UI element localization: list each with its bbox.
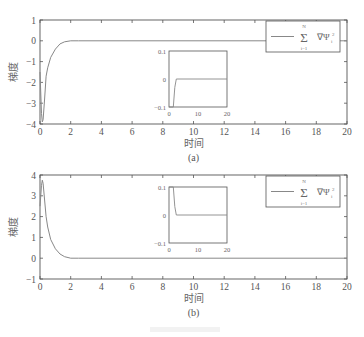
inset-y-tick-label: 0.1 <box>158 184 166 191</box>
x-tick-label: 0 <box>38 127 43 137</box>
legend-term: ∇Ψ <box>316 187 330 197</box>
y-tick-label: −4 <box>26 120 36 130</box>
y-tick-label: 3 <box>31 191 36 201</box>
inset-x-tick-label: 10 <box>195 110 202 117</box>
chart-b: 0246810121416182043210−1梯度时间(b)010200.10… <box>7 171 352 320</box>
legend-sum-symbol: Σ <box>300 185 308 200</box>
x-tick-label: 12 <box>219 127 229 137</box>
subfigure-caption: (b) <box>188 307 200 319</box>
inset-x-tick-label: 0 <box>167 246 170 253</box>
x-tick-label: 10 <box>189 127 199 137</box>
x-tick-label: 20 <box>342 282 352 292</box>
legend: NΣi=1∇Ψ2i <box>266 21 340 52</box>
inset-y-tick-label: −0.1 <box>154 240 166 247</box>
x-tick-label: 16 <box>281 127 291 137</box>
y-tick-label: 0 <box>31 254 36 264</box>
x-tick-label: 8 <box>160 282 165 292</box>
inset-y-tick-label: 0 <box>163 212 166 219</box>
x-tick-label: 10 <box>189 282 199 292</box>
x-tick-label: 18 <box>312 282 322 292</box>
subfigure-caption: (a) <box>188 152 199 164</box>
x-tick-label: 14 <box>250 282 260 292</box>
inset-x-tick-label: 20 <box>224 246 231 253</box>
x-tick-label: 0 <box>38 282 43 292</box>
x-tick-label: 4 <box>99 282 104 292</box>
y-tick-label: 2 <box>31 212 36 222</box>
inset-y-tick-label: −0.1 <box>154 104 166 111</box>
x-tick-label: 2 <box>68 127 73 137</box>
y-tick-label: −1 <box>26 275 36 285</box>
inset-x-tick-label: 10 <box>195 246 202 253</box>
y-tick-label: 4 <box>31 171 36 181</box>
inset-x-tick-label: 20 <box>224 110 231 117</box>
y-axis-label: 梯度 <box>7 217 19 237</box>
y-tick-label: −2 <box>26 78 36 88</box>
inset-y-tick-label: 0 <box>163 76 166 83</box>
x-tick-label: 14 <box>250 127 260 137</box>
figure: 0246810121416182010−1−2−3−4梯度时间(a)010200… <box>0 0 364 337</box>
inset-y-tick-label: 0.1 <box>158 48 166 55</box>
x-tick-label: 20 <box>342 127 352 137</box>
legend-sum-upper: N <box>302 24 306 29</box>
x-axis-label: 时间 <box>184 137 204 149</box>
legend-sum-lower: i=1 <box>301 46 308 51</box>
x-tick-label: 4 <box>99 127 104 137</box>
y-axis-label: 梯度 <box>7 62 19 82</box>
y-tick-label: −3 <box>26 99 36 109</box>
inset-chart: 010200.10−0.1 <box>154 184 230 254</box>
legend-sum-lower: i=1 <box>301 201 308 206</box>
y-tick-label: 1 <box>31 16 36 26</box>
x-tick-label: 6 <box>130 127 135 137</box>
chart-a: 0246810121416182010−1−2−3−4梯度时间(a)010200… <box>7 16 352 165</box>
inset-chart: 010200.10−0.1 <box>154 48 230 118</box>
legend-sum-symbol: Σ <box>300 30 308 45</box>
legend: NΣi=1∇Ψ2i <box>266 176 340 207</box>
y-tick-label: −1 <box>26 57 36 67</box>
x-tick-label: 16 <box>281 282 291 292</box>
y-tick-label: 0 <box>31 36 36 46</box>
figure-caption-faint <box>150 327 220 332</box>
legend-sum-upper: N <box>302 179 306 184</box>
x-tick-label: 8 <box>160 127 165 137</box>
x-tick-label: 12 <box>219 282 229 292</box>
inset-x-tick-label: 0 <box>167 110 170 117</box>
x-tick-label: 2 <box>68 282 73 292</box>
x-axis-label: 时间 <box>184 292 204 304</box>
x-tick-label: 18 <box>312 127 322 137</box>
legend-term: ∇Ψ <box>316 32 330 42</box>
x-tick-label: 6 <box>130 282 135 292</box>
y-tick-label: 1 <box>31 233 36 243</box>
